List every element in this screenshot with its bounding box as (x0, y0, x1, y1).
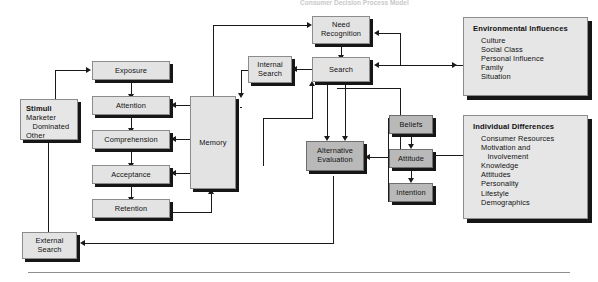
arrowhead-altevaluation-from-attitude (365, 154, 370, 160)
connector-needrec-loop-h (213, 25, 309, 26)
connector-stimuli-exposure-h (55, 70, 87, 71)
arrowhead-memory-from-retention (208, 189, 214, 194)
need-recognition-line-2: Recognition (321, 30, 361, 39)
node-search[interactable]: Search (312, 57, 370, 82)
connector-env-needrec-v (400, 33, 401, 65)
node-exposure[interactable]: Exposure (92, 61, 170, 80)
arrowhead-internalsearch-in (292, 66, 297, 72)
exposure-label: Exposure (115, 66, 147, 75)
connector-extsearch-stimuli (48, 140, 49, 233)
alternative-evaluation-line-2: Evaluation (317, 156, 353, 165)
node-retention[interactable]: Retention (92, 199, 170, 218)
comprehension-label: Comprehension (104, 135, 157, 144)
individual-item-2: Involvement (481, 152, 580, 161)
individual-item-3: Knowledge (481, 161, 580, 170)
environmental-item-3: Family (481, 63, 580, 72)
stimuli-line-1: Marketer (26, 113, 73, 122)
connector-memory-right (240, 107, 242, 108)
arrowhead-memory-top-in (238, 93, 244, 98)
connector-extsearch-search-v1 (263, 118, 264, 166)
individual-item-4: Attitudes (481, 170, 580, 179)
panel-individual-differences[interactable]: Individual Differences Consumer Resource… (463, 115, 588, 219)
connector-search-alteval-b (345, 82, 346, 138)
internal-search-line-2: Search (257, 70, 282, 79)
stimuli-line-2: Dominated (26, 122, 73, 131)
connector-extsearch-search-h (263, 118, 313, 119)
arrowhead-acceptance-from-memory (171, 170, 176, 176)
node-attitude[interactable]: Attitude (389, 149, 433, 168)
attitude-label: Attitude (398, 154, 424, 163)
acceptance-label: Acceptance (111, 170, 151, 179)
node-intention[interactable]: Intention (389, 183, 433, 202)
individual-list: Consumer Resources Motivation and Involv… (473, 134, 580, 207)
node-alternative-evaluation[interactable]: Alternative Evaluation (306, 141, 364, 171)
connector-search-alteval-a (327, 82, 328, 138)
environmental-item-1: Social Class (481, 45, 580, 54)
node-stimuli[interactable]: Stimuli Marketer Dominated Other (20, 99, 78, 140)
connector-stimuli-exposure-v (55, 70, 56, 100)
node-acceptance[interactable]: Acceptance (92, 165, 170, 184)
individual-item-7: Demographics (481, 198, 580, 207)
diagram-canvas: Consumer Decision Process Model (0, 0, 598, 282)
attention-label: Attention (116, 101, 146, 110)
panel-environmental-influences[interactable]: Environmental Influences Culture Social … (463, 17, 588, 96)
environmental-title: Environmental Influences (473, 24, 580, 33)
arrowhead-env-hub (452, 62, 457, 68)
node-attention[interactable]: Attention (92, 96, 170, 115)
connector-altloop-h (85, 243, 334, 244)
environmental-item-4: Situation (481, 72, 580, 81)
connector-env-needrec-h (379, 33, 401, 34)
node-comprehension[interactable]: Comprehension (92, 130, 170, 149)
connector-altloop-v (333, 176, 334, 243)
search-label: Search (329, 65, 353, 74)
intention-label: Intention (396, 188, 425, 197)
node-need-recognition[interactable]: Need Recognition (312, 16, 370, 44)
connector-retention-memory-h (170, 212, 212, 213)
connector-needrec-loop-v (213, 25, 214, 97)
footer-divider (28, 272, 570, 273)
individual-item-6: Lifestyle (481, 189, 580, 198)
connector-attitudebranch-mid (370, 157, 389, 158)
beliefs-label: Beliefs (400, 120, 423, 129)
individual-item-5: Personality (481, 179, 580, 188)
environmental-item-2: Personal Influence (481, 54, 580, 63)
node-memory[interactable]: Memory (190, 96, 236, 189)
arrowhead-search-from-env (374, 62, 379, 68)
node-external-search[interactable]: External Search (22, 232, 77, 259)
connector-indiv-hub-top (337, 88, 401, 89)
arrowhead-comprehension-from-memory (171, 136, 176, 142)
memory-label: Memory (199, 138, 226, 147)
node-internal-search[interactable]: Internal Search (248, 56, 292, 83)
figure-title: Consumer Decision Process Model (300, 0, 500, 6)
stimuli-title: Stimuli (26, 104, 73, 113)
node-beliefs[interactable]: Beliefs (389, 115, 433, 134)
connector-extsearch-search-v2 (312, 86, 313, 118)
individual-item-1: Motivation and (481, 143, 580, 152)
individual-title: Individual Differences (473, 122, 580, 131)
arrowhead-exposure-in (86, 67, 91, 73)
arrowhead-externalsearch-in (80, 240, 85, 246)
retention-label: Retention (115, 204, 148, 213)
external-search-line-2: Search (36, 246, 64, 255)
connector-env-search (379, 65, 463, 66)
arrowhead-attention-from-memory (171, 102, 176, 108)
arrowhead-needrecognition-right (374, 30, 379, 36)
connector-retention-memory-v (211, 194, 212, 212)
environmental-list: Culture Social Class Personal Influence … (473, 36, 580, 81)
stimuli-line-3: Other (26, 131, 73, 140)
individual-item-0: Consumer Resources (481, 134, 580, 143)
environmental-item-0: Culture (481, 36, 580, 45)
